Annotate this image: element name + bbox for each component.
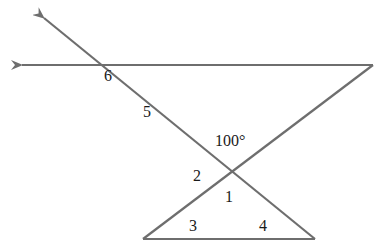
angle-label-6: 6 [104,68,112,84]
angle-label-3: 3 [189,218,197,234]
angle-label-5: 5 [143,104,151,120]
angle-label-100-degrees: 100° [215,133,245,149]
angle-label-2: 2 [193,168,201,184]
diagram-lines [0,0,380,249]
geometry-diagram: 6 5 100° 2 1 3 4 [0,0,380,249]
diagonal-segment [143,65,373,239]
angle-label-1: 1 [225,189,233,205]
angle-label-4: 4 [259,218,267,234]
transversal-ray [44,18,315,239]
